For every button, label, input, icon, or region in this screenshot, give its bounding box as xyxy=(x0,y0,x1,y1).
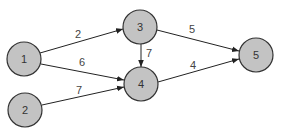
edge-2-4 xyxy=(42,87,124,105)
node-3: 3 xyxy=(123,10,157,44)
node-4: 4 xyxy=(124,67,158,101)
edge-weight-1-3: 2 xyxy=(75,28,81,40)
edge-1-3 xyxy=(40,29,123,53)
graph-diagram: 2 6 7 7 5 4 1 2 3 4 5 xyxy=(0,0,282,136)
edge-4-5 xyxy=(158,59,239,82)
edge-weight-1-4: 6 xyxy=(79,56,85,68)
svg-text:2: 2 xyxy=(22,104,28,116)
node-1: 1 xyxy=(7,42,41,76)
svg-text:1: 1 xyxy=(21,53,27,65)
svg-text:5: 5 xyxy=(253,49,259,61)
svg-text:4: 4 xyxy=(138,78,144,90)
edge-weight-3-5: 5 xyxy=(189,23,195,35)
edge-3-5 xyxy=(157,30,239,51)
edge-weight-2-4: 7 xyxy=(76,84,82,96)
edge-weight-3-4: 7 xyxy=(146,47,152,59)
node-2: 2 xyxy=(8,93,42,127)
svg-text:3: 3 xyxy=(137,21,143,33)
node-5: 5 xyxy=(239,38,273,72)
edge-weight-4-5: 4 xyxy=(190,59,196,71)
